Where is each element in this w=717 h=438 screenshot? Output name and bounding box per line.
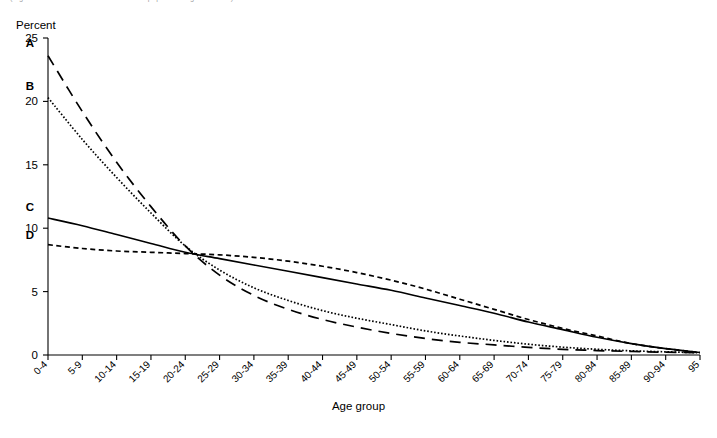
x-tick-label: 80-84 (573, 358, 599, 384)
x-tick-label: 35-39 (264, 358, 290, 384)
y-tick-label: 5 (32, 286, 38, 298)
series-curve-B (48, 98, 700, 353)
x-tick-label: 95 (686, 358, 702, 374)
series-curve-A (48, 56, 700, 353)
series-curve-C (48, 218, 700, 352)
x-tick-label: 50-54 (367, 358, 393, 384)
figure-container: (Figures based on estimates of resident … (0, 0, 717, 438)
line-chart-plot: 05101520250-45-910-1415-1920-2425-2930-3… (0, 0, 717, 438)
curve-label-D: D (26, 229, 34, 241)
y-tick-label: 0 (32, 349, 38, 361)
x-tick-label: 0-4 (31, 358, 49, 376)
y-tick-label: 20 (25, 95, 38, 107)
x-tick-label: 55-59 (401, 358, 427, 384)
x-tick-label: 90-94 (641, 358, 667, 384)
x-tick-label: 40-44 (298, 358, 324, 384)
x-axis-title: Age group (0, 400, 717, 412)
x-tick-label: 20-24 (161, 358, 187, 384)
x-tick-label: 30-34 (229, 358, 255, 384)
x-tick-label: 65-69 (470, 358, 496, 384)
x-tick-label: 75-79 (538, 358, 564, 384)
x-tick-label: 60-64 (435, 358, 461, 384)
x-tick-label: 45-49 (332, 358, 358, 384)
x-tick-label: 15-19 (126, 358, 152, 384)
x-tick-label: 25-29 (195, 358, 221, 384)
curve-label-C: C (26, 201, 34, 213)
curve-label-B: B (26, 80, 34, 92)
x-tick-label: 10-14 (92, 358, 118, 384)
series-curve-D (48, 245, 700, 353)
x-tick-label: 85-89 (607, 358, 633, 384)
curve-label-A: A (26, 37, 34, 49)
clipped-header-note: (Figures based on estimates of resident … (10, 0, 233, 2)
y-axis-title: Percent (16, 19, 56, 31)
x-tick-label: 5-9 (66, 358, 84, 376)
x-tick-label: 70-74 (504, 358, 530, 384)
y-tick-label: 15 (25, 159, 38, 171)
